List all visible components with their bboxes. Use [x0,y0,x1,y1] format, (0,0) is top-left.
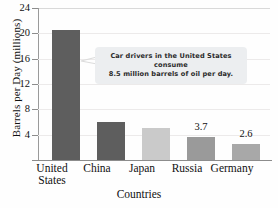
y-tick-label-24: 24 [8,3,30,14]
y-tick-label-8: 8 [8,104,30,115]
y-tick-4 [32,135,38,136]
y-tick-16 [32,59,38,60]
bar-germany [232,144,260,161]
y-tick-label-16: 16 [8,54,30,65]
bar-china [97,122,125,160]
x-tick-label-germany: Germany [201,163,263,175]
plot-top-border [38,8,270,9]
value-label-germany: 2.6 [226,129,266,140]
plot-area: 3.7 2.6 [38,8,270,160]
annotation-callout: Car drivers in the United States consume… [95,47,247,84]
y-tick-24 [32,8,38,9]
x-tick-label-line2: States [21,175,83,187]
value-label-russia: 3.7 [181,122,221,133]
y-tick-12 [32,84,38,85]
x-axis-title: Countries [0,188,278,200]
bar-japan [142,128,170,160]
y-tick-label-20: 20 [8,28,30,39]
y-tick-8 [32,109,38,110]
bar-united-states [52,30,80,160]
bar-chart: Barrels per Day (millions) 3.7 2.6 24 20… [0,0,278,208]
x-axis-line [32,160,272,161]
annotation-line-2: 8.5 million barrels of oil per day. [99,70,243,79]
annotation-line-1: Car drivers in the United States consume [99,52,243,70]
bar-russia [187,137,215,160]
y-tick-20 [32,33,38,34]
y-tick-label-4: 4 [8,130,30,141]
y-tick-label-12: 12 [8,79,30,90]
